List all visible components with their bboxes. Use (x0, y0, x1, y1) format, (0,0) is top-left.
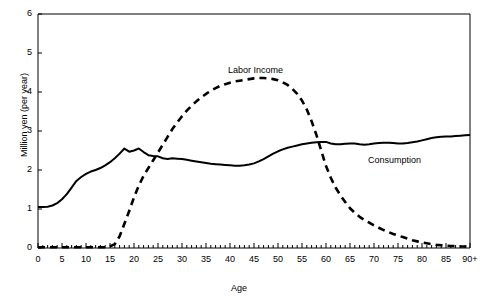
x-tick-label: 0 (26, 254, 50, 264)
x-tick-label: 15 (98, 254, 122, 264)
x-tick-label: 80 (410, 254, 434, 264)
x-tick-label: 75 (386, 254, 410, 264)
x-tick-label: 35 (194, 254, 218, 264)
x-tick-label: 25 (146, 254, 170, 264)
x-tick-label: 20 (122, 254, 146, 264)
y-tick-label: 2 (12, 164, 32, 174)
x-tick-label: 85 (434, 254, 458, 264)
x-tick-label: 40 (218, 254, 242, 264)
x-tick-label: 45 (242, 254, 266, 264)
x-tick-label: 5 (50, 254, 74, 264)
x-tick-label: 10 (74, 254, 98, 264)
x-tick-label: 70 (362, 254, 386, 264)
series-label-consumption: Consumption (368, 155, 421, 165)
x-tick-label: 50 (266, 254, 290, 264)
x-tick-label: 30 (170, 254, 194, 264)
x-tick-label: 65 (338, 254, 362, 264)
chart-container: Million yen (per year) Age Labor Income … (0, 0, 489, 304)
x-tick-label: 55 (290, 254, 314, 264)
x-tick-label: 60 (314, 254, 338, 264)
y-tick-label: 5 (12, 47, 32, 57)
x-tick-label: 90+ (458, 254, 482, 264)
x-axis-title: Age (199, 283, 279, 293)
y-axis-ticks (38, 14, 42, 248)
y-tick-label: 1 (12, 203, 32, 213)
plot-frame (38, 14, 470, 248)
y-tick-label: 3 (12, 125, 32, 135)
y-tick-label: 6 (12, 8, 32, 18)
series-label-labor-income: Labor Income (228, 65, 283, 75)
y-tick-label: 4 (12, 86, 32, 96)
y-tick-label: 0 (12, 242, 32, 252)
series-line-consumption (38, 135, 470, 207)
